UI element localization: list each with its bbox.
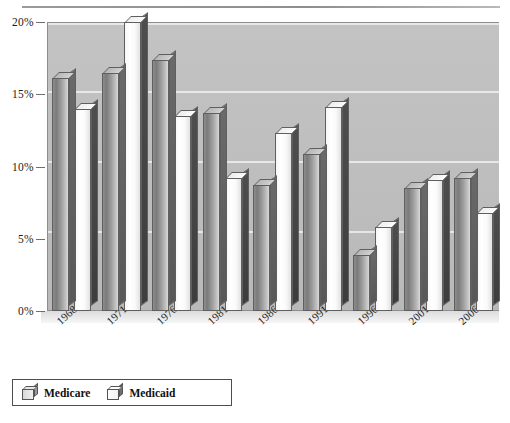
bar-medicaid-2006-2010	[476, 213, 493, 311]
legend-swatch-front	[22, 389, 34, 400]
legend-label-medicare: Medicare	[44, 387, 90, 399]
bar-side-face	[443, 170, 450, 306]
bar-side-face	[471, 168, 478, 306]
x-axis-labels: 1968–19701971–19751976–19801981–19851986…	[0, 318, 510, 376]
bar-medicare-2006-2010	[454, 178, 471, 311]
bar-side-face	[493, 203, 500, 306]
bar-medicare-1991-1995	[303, 154, 320, 312]
bar-front-face	[476, 213, 493, 311]
bar-side-face	[141, 12, 148, 306]
bar-side-face	[392, 217, 399, 306]
bar-front-face	[124, 22, 141, 311]
bar-side-face	[220, 103, 227, 306]
bar-side-face	[421, 178, 428, 306]
bar-front-face	[174, 116, 191, 311]
legend-swatch-medicaid	[107, 386, 122, 400]
bar-front-face	[353, 255, 370, 311]
bar-side-face	[119, 63, 126, 306]
bar-side-face	[69, 68, 76, 306]
bar-side-face	[292, 123, 299, 306]
bar-medicaid-1968-1970	[74, 109, 91, 311]
bar-medicare-1968-1970	[52, 78, 69, 311]
bar-medicare-1971-1975	[102, 73, 119, 311]
bar-medicaid-1991-1995	[325, 107, 342, 311]
bar-medicare-1976-1980	[152, 60, 169, 311]
bar-front-face	[303, 154, 320, 312]
bar-medicare-1996-2000	[353, 255, 370, 311]
legend-swatch-side	[119, 382, 123, 396]
bar-front-face	[426, 180, 443, 311]
bar-medicaid-1996-2000	[375, 227, 392, 311]
y-axis-tick	[36, 22, 45, 23]
bar-front-face	[52, 78, 69, 311]
y-tick-label-text: 0%	[18, 305, 34, 317]
bar-front-face	[375, 227, 392, 311]
top-divider-rule	[22, 6, 500, 8]
chart-legend: MedicareMedicaid	[12, 379, 232, 406]
bar-front-face	[152, 60, 169, 311]
bar-side-face	[270, 175, 277, 306]
bar-front-face	[325, 107, 342, 311]
legend-swatch-medicare	[22, 386, 37, 400]
y-tick-label-text: 20%	[12, 16, 34, 28]
bar-medicare-1986-1990	[253, 185, 270, 311]
bar-front-face	[454, 178, 471, 311]
legend-swatch-front	[107, 389, 119, 400]
bar-front-face	[275, 133, 292, 311]
y-tick-label-text: 5%	[18, 233, 34, 245]
y-axis-tick	[36, 239, 45, 240]
bar-side-face	[169, 50, 176, 306]
y-tick-label-text: 10%	[12, 161, 34, 173]
bar-side-face	[242, 168, 249, 306]
bar-medicare-1981-1985	[203, 113, 220, 311]
bar-series-container	[47, 22, 499, 311]
y-axis-tick	[36, 167, 45, 168]
y-axis-tick	[36, 311, 45, 312]
legend-label-medicaid: Medicaid	[129, 387, 175, 399]
bar-front-face	[404, 188, 421, 311]
bar-front-face	[74, 109, 91, 311]
y-tick-label-text: 15%	[12, 88, 34, 100]
bar-front-face	[225, 178, 242, 311]
bar-side-face	[342, 97, 349, 306]
bar-medicaid-1976-1980	[174, 116, 191, 311]
bar-front-face	[253, 185, 270, 311]
bar-medicaid-1971-1975	[124, 22, 141, 311]
bar-front-face	[102, 73, 119, 311]
legend-swatch-side	[34, 382, 38, 396]
y-axis-tick	[36, 94, 45, 95]
bar-front-face	[203, 113, 220, 311]
chart-figure: 0%5%10%15%20% 1968–19701971–19751976–198…	[0, 0, 510, 423]
bar-medicare-2001-2005	[404, 188, 421, 311]
bar-side-face	[91, 99, 98, 306]
bar-side-face	[320, 144, 327, 306]
bar-medicaid-1986-1990	[275, 133, 292, 311]
bar-medicaid-1981-1985	[225, 178, 242, 311]
figure-caption	[12, 414, 432, 423]
bar-medicaid-2001-2005	[426, 180, 443, 311]
bar-side-face	[191, 106, 198, 306]
